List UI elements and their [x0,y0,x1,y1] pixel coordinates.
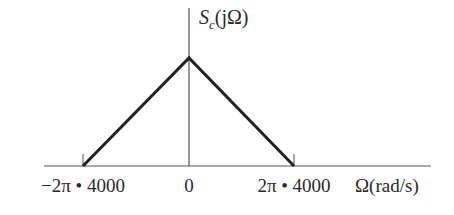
y-axis-label: Sc(jΩ) [199,6,249,32]
x-axis-label: Ω(rad/s) [355,175,419,197]
tick-label-left: −2π • 4000 [41,175,125,196]
tick-label-right: 2π • 4000 [257,175,330,196]
tick-label-zero: 0 [184,175,194,196]
spectrum-figure: Sc(jΩ) −2π • 4000 0 2π • 4000 Ω(rad/s) [0,0,454,215]
